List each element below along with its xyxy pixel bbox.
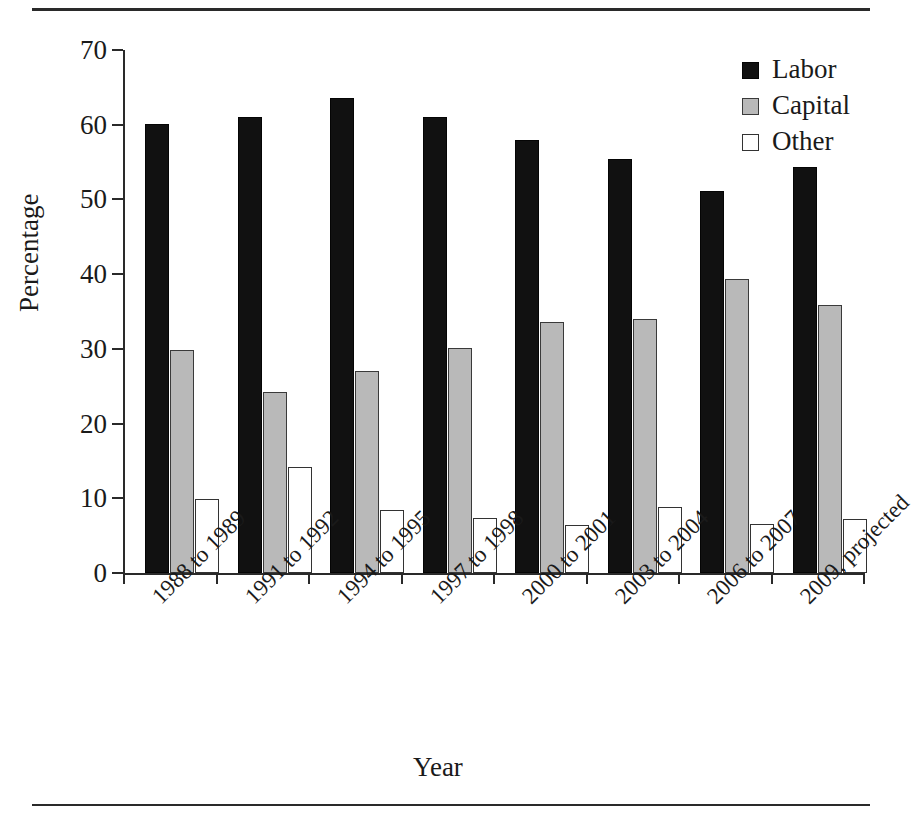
x-tick [586, 573, 588, 584]
bar-group [515, 50, 589, 573]
legend-label: Capital [772, 88, 850, 123]
legend-label: Other [772, 124, 833, 159]
bar-capital[interactable] [633, 319, 657, 573]
y-tick [112, 49, 123, 51]
bar-group [330, 50, 404, 573]
y-tick-label: 10 [80, 485, 107, 512]
x-tick [216, 573, 218, 584]
bar-labor[interactable] [238, 117, 262, 573]
bar-group [145, 50, 219, 573]
y-tick [112, 124, 123, 126]
x-axis-title: Year [0, 752, 876, 783]
bar-capital[interactable] [355, 371, 379, 573]
bar-capital[interactable] [725, 279, 749, 573]
bar-capital[interactable] [448, 348, 472, 573]
bar-group [238, 50, 312, 573]
legend-item-labor[interactable]: Labor [742, 52, 850, 88]
y-tick [112, 497, 123, 499]
y-tick [112, 273, 123, 275]
x-tick [123, 573, 125, 584]
legend-swatch-other-icon [742, 134, 759, 151]
y-tick-label: 30 [80, 335, 107, 362]
y-axis-line [123, 50, 125, 573]
bar-labor[interactable] [793, 167, 817, 573]
y-tick [112, 348, 123, 350]
bar-group [608, 50, 682, 573]
top-rule [32, 8, 870, 11]
y-tick [112, 572, 123, 574]
y-tick-label: 0 [94, 560, 108, 587]
legend-swatch-labor-icon [742, 62, 759, 79]
x-tick [308, 573, 310, 584]
x-tick [493, 573, 495, 584]
y-tick-label: 20 [80, 410, 107, 437]
bar-capital[interactable] [818, 305, 842, 573]
bar-labor[interactable] [145, 124, 169, 573]
legend-swatch-capital-icon [742, 98, 759, 115]
y-tick-label: 50 [80, 186, 107, 213]
bottom-rule [32, 804, 870, 806]
x-tick [401, 573, 403, 584]
x-tick [863, 573, 865, 584]
bar-labor[interactable] [330, 98, 354, 573]
chart-legend: LaborCapitalOther [742, 52, 850, 160]
bar-group [423, 50, 497, 573]
y-tick-label: 40 [80, 261, 107, 288]
y-tick [112, 423, 123, 425]
bar-capital[interactable] [540, 322, 564, 573]
y-tick-label: 70 [80, 37, 107, 64]
x-tick [678, 573, 680, 584]
legend-item-other[interactable]: Other [742, 124, 850, 160]
bar-capital[interactable] [263, 392, 287, 573]
bar-capital[interactable] [170, 350, 194, 573]
bar-labor[interactable] [423, 117, 447, 574]
y-tick-label: 60 [80, 111, 107, 138]
legend-label: Labor [772, 52, 836, 87]
bar-labor[interactable] [515, 140, 539, 573]
y-axis-title: Percentage [14, 194, 45, 312]
legend-item-capital[interactable]: Capital [742, 88, 850, 124]
bar-labor[interactable] [608, 159, 632, 573]
y-tick [112, 198, 123, 200]
x-tick [771, 573, 773, 584]
